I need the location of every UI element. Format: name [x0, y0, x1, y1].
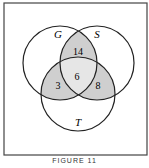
- value-g-t: 3: [56, 80, 61, 91]
- label-t: T: [75, 116, 82, 128]
- label-g: G: [54, 28, 62, 40]
- figure-caption: FIGURE 11: [0, 157, 149, 164]
- value-g-s-t: 6: [75, 71, 80, 82]
- value-g-s: 14: [73, 46, 83, 57]
- venn-diagram: G S T 14 6 3 8: [0, 0, 149, 168]
- value-s-t: 8: [96, 80, 101, 91]
- label-s: S: [94, 28, 100, 40]
